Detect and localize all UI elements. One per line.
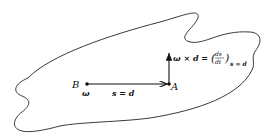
point-B <box>85 82 89 86</box>
body-outline <box>14 13 260 132</box>
label-A: A <box>170 81 178 92</box>
frac-den: dt <box>215 58 222 65</box>
frac-num: ds <box>215 50 222 57</box>
velocity-subscript: s = d <box>230 60 248 67</box>
paren-close: ) <box>224 52 229 65</box>
label-B: B <box>71 79 79 90</box>
velocity-label: ω × d = <box>173 53 208 63</box>
label-s-equals-d: s = d <box>112 88 135 98</box>
rigid-body-diagram: B ω A s = d ω × d = ( ds dt ) s = d <box>0 0 278 139</box>
label-omega-B: ω <box>82 88 90 98</box>
